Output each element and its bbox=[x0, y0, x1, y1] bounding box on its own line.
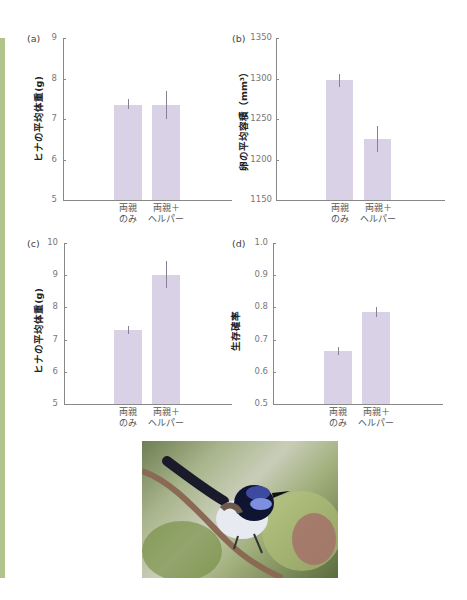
tick bbox=[273, 275, 276, 276]
tick-label: 0.8 bbox=[234, 301, 268, 311]
tick bbox=[63, 160, 66, 161]
x-axis bbox=[273, 404, 443, 405]
tick-label: 9 bbox=[24, 269, 58, 279]
tick-label: 0.5 bbox=[234, 398, 268, 408]
tick bbox=[63, 119, 66, 120]
error-bar bbox=[338, 347, 339, 355]
tick bbox=[276, 119, 279, 120]
tick-label: 5 bbox=[24, 398, 58, 408]
tick-label: 6 bbox=[24, 366, 58, 376]
error-bar bbox=[166, 91, 167, 119]
tick bbox=[276, 38, 279, 39]
bird-photo bbox=[142, 441, 338, 578]
tick-label: 1350 bbox=[238, 32, 272, 42]
bar-parents-only bbox=[324, 351, 352, 404]
tick-label: 7 bbox=[23, 113, 57, 123]
tick-label: 1250 bbox=[238, 113, 272, 123]
error-bar bbox=[377, 126, 378, 152]
bar-parents-helpers bbox=[362, 312, 390, 404]
bar-parents-only bbox=[326, 80, 353, 200]
tick-label: 8 bbox=[24, 301, 58, 311]
y-axis bbox=[64, 243, 65, 404]
category-label: 両親のみ bbox=[108, 203, 148, 225]
tick-label: 1150 bbox=[238, 194, 272, 204]
bar-parents-helpers bbox=[152, 105, 180, 200]
side-accent-bar bbox=[0, 38, 5, 578]
error-bar bbox=[376, 307, 377, 317]
tick bbox=[64, 307, 67, 308]
error-bar bbox=[339, 74, 340, 87]
tick bbox=[64, 340, 67, 341]
tick bbox=[63, 38, 66, 39]
tick-label: 1.0 bbox=[234, 237, 268, 247]
tick-label: 10 bbox=[24, 237, 58, 247]
tick bbox=[273, 307, 276, 308]
tick-label: 1300 bbox=[238, 73, 272, 83]
category-label: 両親＋ヘルパー bbox=[358, 203, 398, 225]
tick bbox=[64, 372, 67, 373]
tick bbox=[276, 79, 279, 80]
tick bbox=[273, 340, 276, 341]
category-label: 両親＋ヘルパー bbox=[146, 407, 186, 429]
error-bar bbox=[128, 326, 129, 334]
fairy-wren-illustration bbox=[142, 441, 338, 578]
tick-label: 0.6 bbox=[234, 366, 268, 376]
error-bar bbox=[128, 99, 129, 109]
category-label: 両親＋ヘルパー bbox=[146, 203, 186, 225]
tick-label: 0.9 bbox=[234, 269, 268, 279]
x-axis bbox=[276, 200, 445, 201]
tick-label: 7 bbox=[24, 334, 58, 344]
category-label: 両親のみ bbox=[108, 407, 148, 429]
bar-parents-only bbox=[114, 330, 142, 404]
tick-label: 8 bbox=[23, 73, 57, 83]
tick bbox=[276, 160, 279, 161]
tick bbox=[64, 275, 67, 276]
tick bbox=[273, 243, 276, 244]
tick-label: 5 bbox=[23, 194, 57, 204]
tick-label: 0.7 bbox=[234, 334, 268, 344]
category-label: 両親のみ bbox=[318, 407, 358, 429]
bar-parents-helpers bbox=[152, 275, 180, 404]
tick bbox=[273, 372, 276, 373]
tick-label: 1200 bbox=[238, 154, 272, 164]
y-axis bbox=[273, 243, 274, 404]
tick-label: 6 bbox=[23, 154, 57, 164]
tick bbox=[63, 79, 66, 80]
bar-parents-only bbox=[114, 105, 142, 200]
category-label: 両親のみ bbox=[320, 203, 360, 225]
category-label: 両親＋ヘルパー bbox=[356, 407, 396, 429]
x-axis bbox=[63, 200, 232, 201]
error-bar bbox=[166, 261, 167, 288]
tick-label: 9 bbox=[23, 32, 57, 42]
tick bbox=[64, 243, 67, 244]
x-axis bbox=[64, 404, 232, 405]
